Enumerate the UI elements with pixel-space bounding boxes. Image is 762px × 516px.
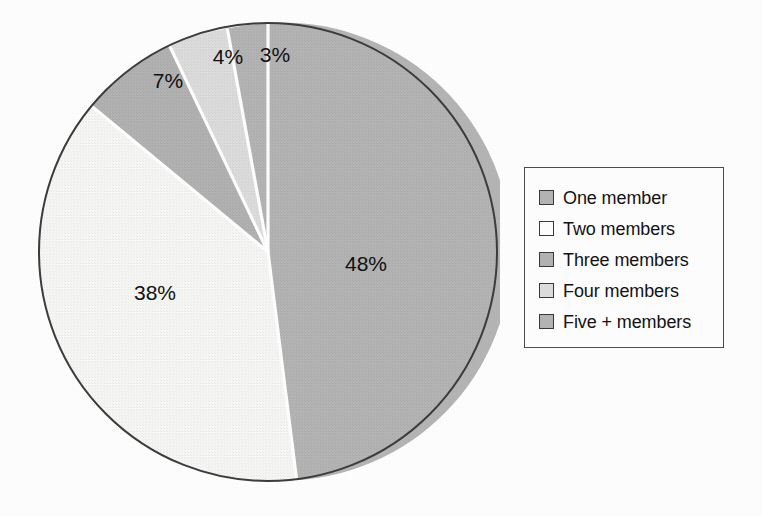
legend-item-five-members: Five + members — [539, 306, 723, 337]
pie-label-five-members: 3% — [260, 43, 290, 66]
legend-swatch-icon — [539, 221, 554, 236]
legend-item-three-members: Three members — [539, 244, 723, 275]
pie-label-two-members: 38% — [134, 281, 176, 304]
legend-swatch-icon — [539, 314, 554, 329]
pie-label-three-members: 7% — [153, 69, 183, 92]
legend-swatch-icon — [539, 190, 554, 205]
legend-item-one-member: One member — [539, 182, 723, 213]
pie-label-four-members: 4% — [213, 45, 243, 68]
legend-swatch-icon — [539, 283, 554, 298]
chart-legend: One member Two members Three members Fou… — [524, 167, 724, 348]
legend-swatch-icon — [539, 252, 554, 267]
legend-label: Four members — [563, 282, 679, 300]
legend-label: One member — [563, 189, 667, 207]
pie-chart: 48% 38% 7% 4% 3% — [38, 20, 500, 488]
legend-item-four-members: Four members — [539, 275, 723, 306]
legend-label: Five + members — [563, 313, 691, 331]
legend-item-two-members: Two members — [539, 213, 723, 244]
pie-chart-svg: 48% 38% 7% 4% 3% — [38, 20, 500, 488]
chart-canvas: 48% 38% 7% 4% 3% One member Two members … — [0, 0, 762, 516]
pie-label-one-member: 48% — [345, 252, 387, 275]
legend-label: Two members — [563, 220, 675, 238]
legend-label: Three members — [563, 251, 689, 269]
